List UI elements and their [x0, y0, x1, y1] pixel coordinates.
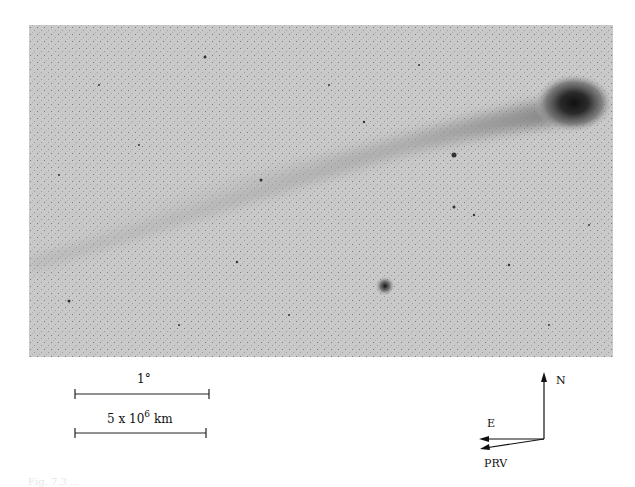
compass-rose	[475, 370, 555, 450]
physical-scale-prefix: 5 x 10	[107, 412, 144, 426]
comet-head	[534, 73, 613, 133]
physical-scale-label: 5 x 106 km	[107, 412, 173, 426]
comet-photograph	[29, 25, 613, 357]
velocity-arrow	[485, 439, 544, 448]
north-label: N	[556, 374, 566, 387]
angular-scale-label: 1°	[137, 372, 151, 386]
physical-scale-unit: km	[154, 412, 173, 426]
figure-caption: Fig. 7.3 ...	[28, 476, 618, 487]
bright-star	[375, 276, 395, 296]
angular-scale-bar	[74, 388, 212, 400]
physical-scale-exponent: 6	[144, 409, 150, 419]
east-label: E	[487, 417, 495, 430]
comet-image	[29, 25, 613, 357]
velocity-label: PRV	[484, 457, 507, 470]
physical-scale-bar	[74, 427, 210, 439]
